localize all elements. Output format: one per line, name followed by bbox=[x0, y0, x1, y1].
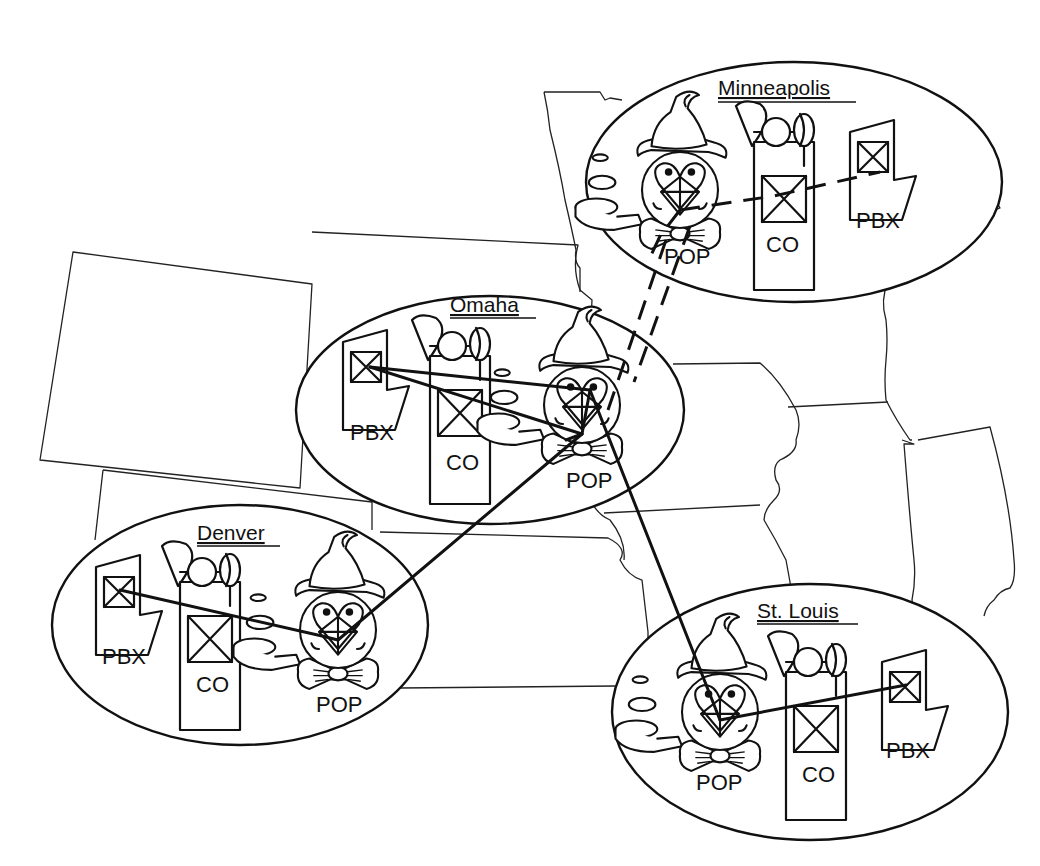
co-label: CO bbox=[446, 450, 479, 475]
pbx-label: PBX bbox=[350, 420, 394, 445]
pbx-label: PBX bbox=[102, 644, 146, 669]
pop-label: POP bbox=[566, 468, 612, 493]
state-iowa bbox=[673, 363, 799, 520]
state-colorado-west bbox=[95, 470, 103, 540]
site-label-minneapolis: Minneapolis bbox=[718, 76, 830, 99]
state-wisconsin bbox=[883, 282, 912, 440]
pop-label: POP bbox=[664, 244, 710, 269]
state-illinois bbox=[902, 440, 915, 612]
site-label-denver: Denver bbox=[197, 521, 265, 544]
co-label: CO bbox=[766, 232, 799, 257]
pbx-label: PBX bbox=[856, 208, 900, 233]
site-label-omaha: Omaha bbox=[450, 293, 519, 316]
state-iowa-south bbox=[604, 505, 760, 513]
pop-label: POP bbox=[316, 692, 362, 717]
site-label-stlouis: St. Louis bbox=[757, 599, 839, 622]
pbx-label: PBX bbox=[886, 738, 930, 763]
state-wyoming bbox=[40, 252, 312, 488]
co-label: CO bbox=[196, 672, 229, 697]
co-label: CO bbox=[802, 762, 835, 787]
pop-label: POP bbox=[696, 770, 742, 795]
network-map-diagram: Minneapolis POP CO PBX Omaha PBX CO POP … bbox=[0, 0, 1040, 866]
state-nebraska-east bbox=[590, 500, 624, 560]
state-wisconsin-south bbox=[788, 402, 888, 407]
state-indiana bbox=[918, 427, 1015, 616]
state-kansas-south bbox=[400, 686, 615, 688]
